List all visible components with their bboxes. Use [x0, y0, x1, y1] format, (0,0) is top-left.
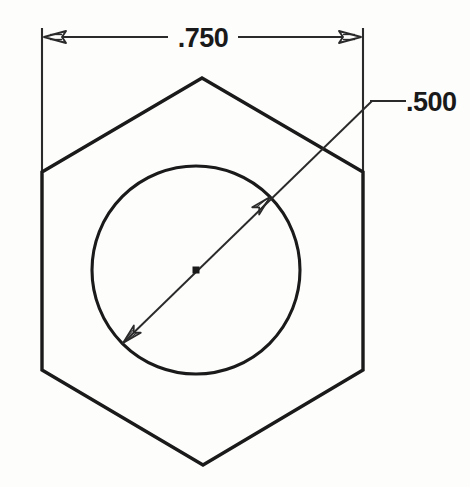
dimension-arrow-right-icon — [339, 31, 361, 43]
diameter-arrow-upper-icon — [252, 193, 273, 214]
hexagon-outline — [42, 78, 363, 465]
diameter-dimension-label: .500 — [406, 87, 457, 117]
drawing-svg: .750 .500 — [0, 0, 470, 487]
diameter-leader-line — [122, 101, 372, 344]
width-dimension-label: .750 — [178, 23, 229, 53]
dimension-arrow-left-icon — [44, 31, 66, 43]
center-point-marker — [193, 267, 200, 274]
technical-drawing-canvas: .750 .500 — [0, 0, 470, 487]
